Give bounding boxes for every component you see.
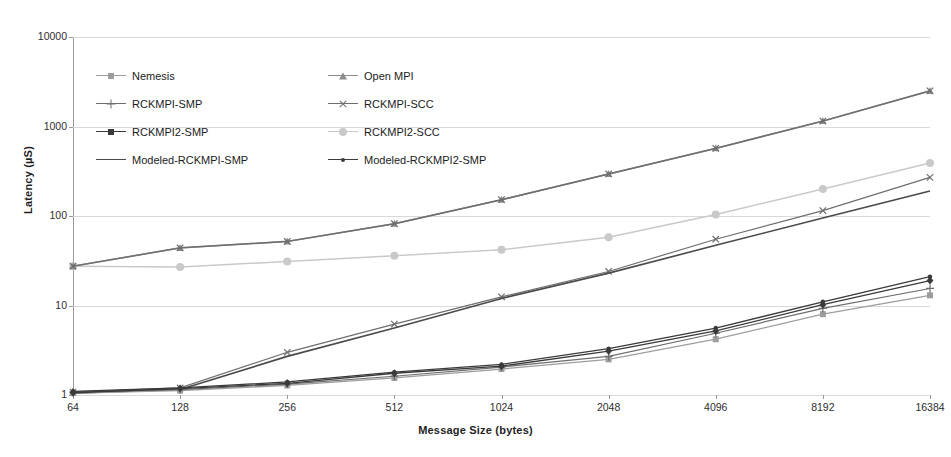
x-tick-mark	[180, 395, 181, 399]
legend-marker-icon	[328, 98, 358, 110]
legend-label: Nemesis	[132, 71, 175, 82]
legend-marker-icon	[96, 154, 126, 166]
data-point-marker	[285, 380, 289, 384]
data-point-marker	[927, 174, 933, 180]
data-point-marker	[819, 185, 827, 193]
legend-item-rckmpi2-smp[interactable]: RCKMPI2-SMP	[96, 126, 328, 138]
data-point-marker	[606, 346, 610, 350]
legend-marker-icon	[328, 70, 358, 82]
x-tick-mark	[287, 395, 288, 399]
series-rckmpi-scc-upper-x	[70, 174, 933, 395]
x-tick-label: 16384	[900, 401, 951, 413]
y-tick-label: 1000	[21, 120, 67, 132]
y-tick-label: 100	[21, 209, 67, 221]
legend-item-modeled-rckmpi-smp[interactable]: Modeled-RCKMPI-SMP	[96, 154, 328, 166]
chart-root: Latency (µS) Message Size (bytes) 110100…	[0, 0, 951, 457]
x-tick-label: 4096	[686, 401, 746, 413]
x-tick-label: 1024	[472, 401, 532, 413]
data-point-marker	[926, 284, 934, 292]
data-point-marker	[176, 263, 184, 271]
x-tick-mark	[609, 395, 610, 399]
series-rckmpi-smp	[69, 284, 934, 396]
legend-marker-icon	[96, 126, 126, 138]
data-point-marker	[928, 274, 932, 278]
series-modeled-rckmpi2-smp	[71, 274, 932, 393]
data-point-marker	[178, 386, 182, 390]
legend-marker-icon	[328, 126, 358, 138]
series-line	[73, 177, 930, 392]
series-nemesis	[70, 292, 933, 396]
data-point-marker	[498, 246, 506, 254]
data-point-marker	[821, 300, 825, 304]
legend-item-nemesis[interactable]: Nemesis	[96, 70, 328, 82]
data-point-marker	[283, 258, 291, 266]
x-tick-mark	[394, 395, 395, 399]
x-tick-mark	[716, 395, 717, 399]
chart-legend: NemesisOpen MPIRCKMPI-SMPRCKMPI-SCCRCKMP…	[96, 62, 516, 174]
legend-label: RCKMPI-SCC	[364, 99, 434, 110]
x-tick-label: 512	[364, 401, 424, 413]
legend-marker-icon	[96, 70, 126, 82]
legend-label: RCKMPI2-SCC	[364, 127, 440, 138]
data-point-marker	[390, 252, 398, 260]
x-tick-label: 8192	[793, 401, 853, 413]
data-point-marker	[712, 210, 720, 218]
legend-item-modeled-rckmpi2-smp[interactable]: Modeled-RCKMPI2-SMP	[328, 154, 560, 166]
x-tick-mark	[502, 395, 503, 399]
x-tick-mark	[823, 395, 824, 399]
data-point-marker	[926, 159, 934, 167]
x-axis-title: Message Size (bytes)	[0, 424, 951, 436]
legend-item-rckmpi-scc[interactable]: RCKMPI-SCC	[328, 98, 560, 110]
x-tick-label: 2048	[579, 401, 639, 413]
data-point-marker	[605, 233, 613, 241]
legend-label: Modeled-RCKMPI-SMP	[132, 155, 248, 166]
x-tick-label: 64	[43, 401, 103, 413]
legend-item-rckmpi2-scc[interactable]: RCKMPI2-SCC	[328, 126, 560, 138]
legend-item-open-mpi[interactable]: Open MPI	[328, 70, 560, 82]
data-point-marker	[71, 389, 75, 393]
data-point-marker	[714, 326, 718, 330]
data-point-marker	[499, 362, 503, 366]
series-line	[73, 288, 930, 392]
y-tick-label: 1	[21, 388, 67, 400]
legend-label: Open MPI	[364, 71, 414, 82]
y-tick-label: 10000	[21, 30, 67, 42]
legend-label: RCKMPI-SMP	[132, 99, 202, 110]
x-tick-label: 128	[150, 401, 210, 413]
legend-marker-icon	[96, 98, 126, 110]
series-line	[73, 277, 930, 392]
data-point-marker	[927, 292, 933, 298]
x-tick-mark	[930, 395, 931, 399]
y-tick-label: 10	[21, 299, 67, 311]
x-tick-label: 256	[257, 401, 317, 413]
data-point-marker	[392, 370, 396, 374]
legend-item-rckmpi-smp[interactable]: RCKMPI-SMP	[96, 98, 328, 110]
legend-marker-icon	[328, 154, 358, 166]
legend-label: RCKMPI2-SMP	[132, 127, 208, 138]
series-rckmpi2-smp	[70, 277, 934, 397]
legend-label: Modeled-RCKMPI2-SMP	[364, 155, 486, 166]
